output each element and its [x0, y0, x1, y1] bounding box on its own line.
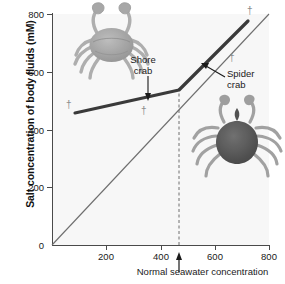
- chart-graphics: [0, 0, 285, 284]
- dagger-marker-spider-low: †: [141, 106, 147, 116]
- dagger-marker-shore-left: †: [66, 100, 72, 110]
- dagger-marker-shore-right: †: [247, 6, 253, 16]
- spider-crab-illustration: [193, 95, 281, 176]
- dagger-marker-spider-high: †: [229, 53, 235, 63]
- chart-figure: Salt concentration of body fluids (mM) 8…: [0, 0, 285, 284]
- spider-crab-label: Spider crab: [227, 68, 273, 90]
- shore-crab-label: Shore crab: [121, 54, 165, 76]
- seawater-label: Normal seawater concentration: [120, 266, 285, 277]
